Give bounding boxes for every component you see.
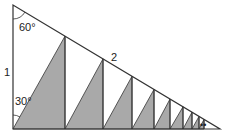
shaded-triangle: [154, 99, 170, 129]
shaded-triangle: [65, 59, 103, 129]
shaded-triangle: [103, 76, 132, 129]
shaded-triangle: [170, 107, 183, 129]
angle-arc-60: [13, 12, 25, 19]
continuation-dots: ••: [200, 120, 206, 130]
angle-30-label: 30°: [15, 95, 32, 107]
angle-60-label: 60°: [19, 21, 36, 33]
angle-arc-30: [13, 115, 20, 117]
shaded-triangle: [192, 116, 199, 129]
shaded-triangle: [13, 36, 65, 129]
side-1-label: 1: [4, 66, 10, 78]
shaded-triangle: [132, 89, 154, 129]
shaded-triangle: [183, 112, 192, 129]
shaded-triangles: [13, 36, 204, 129]
hypotenuse-2-label: 2: [111, 51, 117, 63]
triangle-diagram: 60° 30° 1 2 ••: [0, 0, 227, 139]
